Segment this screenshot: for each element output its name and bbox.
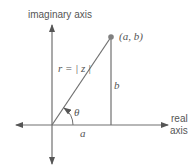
radius-line: [52, 37, 111, 125]
adjacent-label: a: [80, 127, 86, 139]
real-axis-label-line1: real: [171, 113, 188, 124]
complex-plane-diagram: imaginary axis (a, b) r = | z | b θ a re…: [0, 0, 193, 168]
real-axis-label-line2: axis: [170, 125, 188, 136]
angle-label: θ: [74, 106, 80, 118]
angle-arc: [64, 108, 73, 125]
opposite-label: b: [114, 79, 120, 91]
point-ab: [108, 34, 114, 40]
imaginary-axis-label: imaginary axis: [28, 9, 92, 20]
point-label: (a, b): [119, 30, 143, 43]
radius-label: r = | z |: [58, 62, 91, 74]
